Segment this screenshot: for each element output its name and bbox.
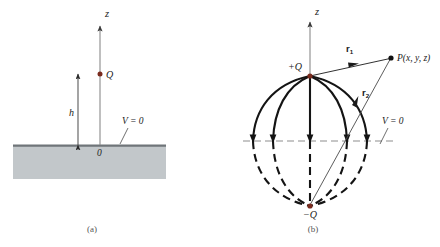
- origin-label: 0: [97, 148, 102, 158]
- charge-plus-q-dot: [307, 73, 312, 78]
- field-line-4-upper: [310, 76, 347, 141]
- charge-minus-q-label: −Q: [303, 209, 318, 220]
- panel-b: z: [243, 6, 430, 234]
- field-line-2-lower: [273, 141, 310, 206]
- field-line-1-lower: [253, 141, 310, 206]
- caption-a: (a): [87, 224, 97, 234]
- panel-a: z Q h 0 V = 0 (a): [13, 8, 166, 234]
- height-label: h: [69, 107, 74, 118]
- figure-canvas: z Q h 0 V = 0 (a) z: [0, 0, 440, 247]
- field-point-p-dot: [388, 55, 393, 60]
- caption-b: (b): [308, 224, 319, 234]
- charge-plus-q-label: +Q: [288, 61, 303, 72]
- conductor-slab: [13, 146, 166, 179]
- field-point-p-label: P(x, y, z): [396, 53, 430, 64]
- field-arrow-5: [364, 135, 371, 144]
- field-line-1-upper: [253, 76, 310, 141]
- vector-r2-line: [310, 60, 390, 206]
- potential-label-b: V = 0: [382, 116, 404, 126]
- vector-r1-label: r1: [346, 43, 354, 55]
- charge-q-dot: [98, 72, 103, 77]
- charge-minus-q-dot: [307, 203, 312, 208]
- potential-label-a: V = 0: [122, 116, 144, 126]
- field-direction-arrows: [250, 135, 371, 144]
- vector-r2-label: r2: [362, 87, 370, 99]
- field-arrow-1: [250, 135, 257, 144]
- z-axis-label-a: z: [104, 8, 109, 19]
- field-arrow-2: [270, 135, 277, 144]
- field-arrow-3: [307, 135, 314, 144]
- potential-leader-b: [380, 128, 388, 144]
- field-line-5-upper: [310, 76, 367, 141]
- field-line-4-lower: [310, 141, 347, 206]
- field-line-5-lower: [310, 141, 367, 206]
- charge-q-label: Q: [106, 69, 114, 80]
- vector-r1-line: [310, 59, 390, 77]
- field-lines-lower: [253, 141, 367, 206]
- figure-container: z Q h 0 V = 0 (a) z: [0, 0, 440, 247]
- field-line-2-upper: [273, 76, 310, 141]
- potential-leader-a: [120, 128, 128, 144]
- z-axis-label-b: z: [314, 6, 319, 17]
